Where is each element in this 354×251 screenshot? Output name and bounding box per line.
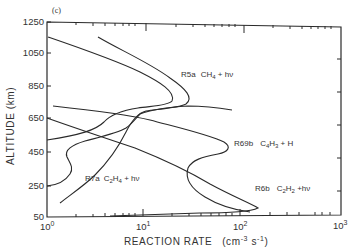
y-tick-labels: 1250 1050 850 650 450 250 50 [23, 16, 44, 222]
x-tick-labels: 100 101 102 103 [40, 219, 348, 232]
svg-text:450: 450 [28, 146, 44, 157]
curve-annotations: R5aCH4 + hν R69bC4H3 + H R7aC2H4 + hν R6… [85, 70, 310, 194]
svg-text:1050: 1050 [23, 47, 44, 58]
svg-text:250: 250 [28, 180, 44, 191]
curve-r69b [53, 106, 250, 212]
panel-label: (c) [52, 6, 61, 15]
y-axis-title: ALTITUDE (km) [5, 87, 16, 165]
x-axis-title: REACTION RATE(cm-3 s-1) [124, 235, 268, 247]
svg-text:100: 100 [40, 220, 55, 232]
svg-text:1250: 1250 [23, 16, 44, 27]
annotation-r5a: R5aCH4 + hν [181, 70, 233, 80]
curves [47, 37, 258, 216]
svg-text:850: 850 [28, 80, 44, 91]
svg-text:650: 650 [28, 112, 44, 123]
annotation-r6b: R6bC2H2 +hν [255, 184, 310, 194]
svg-text:101: 101 [136, 220, 151, 232]
annotation-r69b: R69bC4H3 + H [234, 139, 293, 149]
annotation-r7a: R7aC2H4 + hν [85, 174, 140, 184]
svg-text:102: 102 [233, 220, 248, 232]
curve-r6b [47, 118, 258, 216]
reaction-rate-chart: (c) [0, 0, 354, 251]
svg-text:103: 103 [333, 219, 348, 231]
